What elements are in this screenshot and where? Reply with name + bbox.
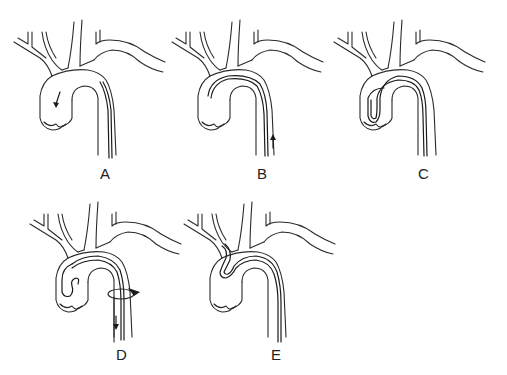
arrow-down-icon — [56, 92, 60, 104]
panel-c — [334, 20, 485, 156]
panel-label-c: C — [418, 165, 429, 182]
panel-label-b: B — [257, 165, 267, 182]
catheter-b — [208, 76, 268, 156]
aortic-arch-diagram — [0, 0, 507, 375]
panel-label-a: A — [100, 165, 110, 182]
panel-a — [14, 20, 165, 158]
panel-d — [30, 202, 181, 342]
panel-label-d: D — [116, 346, 127, 363]
panel-e — [184, 202, 335, 342]
panel-label-e: E — [271, 346, 281, 363]
panel-b — [172, 20, 323, 156]
